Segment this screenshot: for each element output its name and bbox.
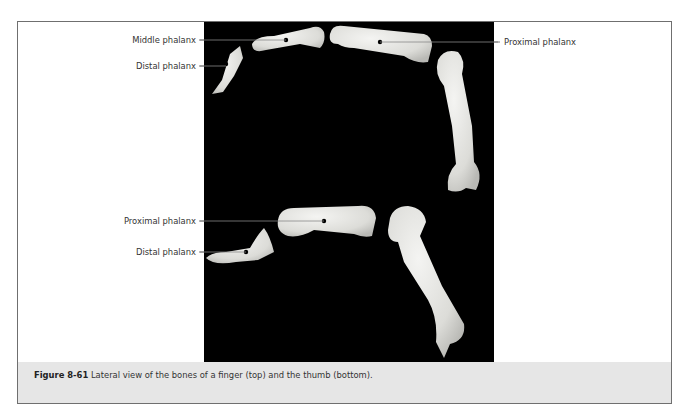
label-finger-middle-phalanx: Middle phalanx — [96, 35, 196, 45]
label-thumb-distal-phalanx: Distal phalanx — [96, 247, 196, 257]
figure-caption-text: Lateral view of the bones of a finger (t… — [91, 370, 373, 380]
caption-band: Figure 8-61 Lateral view of the bones of… — [18, 362, 671, 403]
figure-caption: Figure 8-61 Lateral view of the bones of… — [34, 370, 373, 380]
label-thumb-proximal-phalanx: Proximal phalanx — [96, 216, 196, 226]
label-finger-distal-phalanx: Distal phalanx — [96, 61, 196, 71]
figure-number: Figure 8-61 — [34, 370, 88, 380]
label-finger-proximal-phalanx: Proximal phalanx — [504, 37, 576, 47]
